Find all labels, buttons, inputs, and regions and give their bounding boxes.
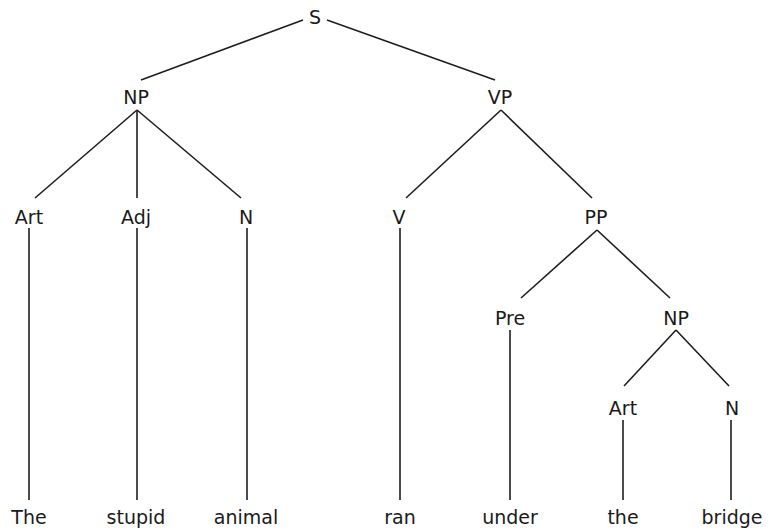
node-pre: Pre bbox=[495, 309, 525, 328]
tree-edge bbox=[521, 230, 597, 298]
node-np-subject: NP bbox=[123, 88, 149, 107]
tree-edge bbox=[137, 110, 241, 198]
tree-edge bbox=[406, 110, 501, 198]
node-n-2: N bbox=[725, 399, 739, 418]
word-the-2: the bbox=[607, 508, 638, 527]
node-art-1: Art bbox=[15, 208, 43, 227]
word-animal: animal bbox=[214, 508, 278, 527]
tree-edge bbox=[676, 330, 729, 386]
tree-edge bbox=[35, 110, 137, 198]
word-the: The bbox=[11, 508, 46, 527]
word-bridge: bridge bbox=[702, 508, 763, 527]
node-n-1: N bbox=[239, 208, 253, 227]
node-np-object: NP bbox=[663, 309, 689, 328]
word-ran: ran bbox=[384, 508, 416, 527]
node-vp: VP bbox=[488, 88, 512, 107]
node-pp: PP bbox=[585, 208, 608, 227]
syntax-tree-edges bbox=[0, 0, 773, 531]
tree-edge bbox=[597, 230, 670, 298]
word-stupid: stupid bbox=[107, 508, 166, 527]
node-v: V bbox=[393, 208, 406, 227]
node-s: S bbox=[309, 8, 321, 27]
word-under: under bbox=[482, 508, 538, 527]
tree-edge bbox=[141, 20, 303, 80]
tree-edge bbox=[501, 110, 592, 198]
node-adj: Adj bbox=[121, 208, 151, 227]
tree-edge bbox=[624, 330, 676, 386]
node-art-2: Art bbox=[609, 399, 637, 418]
tree-edge bbox=[327, 20, 495, 80]
